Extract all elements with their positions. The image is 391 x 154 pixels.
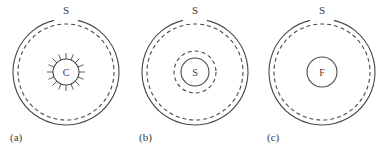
core-spoke <box>71 54 73 60</box>
core-spoke <box>59 84 61 90</box>
outer-ring-label: S <box>192 4 198 16</box>
core-spoke <box>75 81 79 85</box>
core-label: S <box>192 67 198 78</box>
panel-caption: (c) <box>267 131 280 144</box>
core-spoke <box>53 81 57 85</box>
core-spoke <box>48 77 54 79</box>
core-spoke <box>75 59 79 63</box>
diagram-panel-b: SS(b) <box>139 4 248 144</box>
core-spoke <box>53 59 57 63</box>
core-spoke <box>48 65 54 67</box>
panel-caption: (a) <box>10 131 23 144</box>
diagram-panel-a: SC(a) <box>10 4 119 144</box>
core-label: F <box>319 67 325 78</box>
core-label: C <box>63 67 70 78</box>
outer-ring-label: S <box>319 4 325 16</box>
core-spoke <box>78 77 84 79</box>
figure-container: SC(a)SS(b)SF(c) <box>0 0 391 154</box>
core-spoke <box>78 65 84 67</box>
core-spoke <box>71 84 73 90</box>
outer-ring-label: S <box>63 4 69 16</box>
core-spoke <box>59 54 61 60</box>
panel-caption: (b) <box>139 131 152 144</box>
diagram-panel-c: SF(c) <box>267 4 375 144</box>
figure-svg: SC(a)SS(b)SF(c) <box>0 0 391 154</box>
